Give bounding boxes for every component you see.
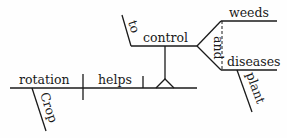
word-helps: helps [98,72,132,87]
word-crop: Crop [37,90,61,124]
word-control: control [143,30,188,45]
word-rotation: rotation [19,72,70,87]
sentence-diagram: rotation helps control weeds diseases Cr… [0,0,287,138]
pedestal [156,79,174,88]
word-to: to [125,18,143,35]
word-and: and [211,36,226,60]
word-weeds: weeds [229,5,269,20]
diagram-canvas: rotation helps control weeds diseases Cr… [0,0,287,138]
word-diseases: diseases [227,54,281,69]
word-plant: plant [243,70,268,106]
